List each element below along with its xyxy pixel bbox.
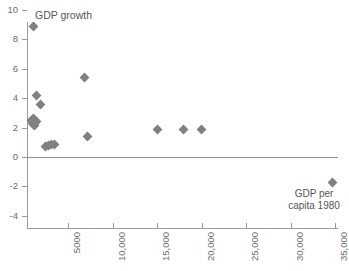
- x-tick-label: 30,000: [295, 232, 305, 261]
- x-tick-label: 10,000: [117, 232, 127, 261]
- scatter-point: [178, 125, 188, 135]
- x-tick-label: 20,000: [206, 232, 216, 261]
- y-tick-mark: [22, 216, 27, 217]
- x-tick-mark: [68, 223, 69, 229]
- y-tick-mark: [22, 10, 27, 11]
- x-tick-label: 5000: [72, 232, 82, 253]
- zero-reference-line: [27, 157, 338, 158]
- x-tick-mark: [246, 223, 247, 229]
- y-tick-mark: [22, 186, 27, 187]
- scatter-point: [197, 125, 207, 135]
- y-tick-mark: [22, 98, 27, 99]
- scatter-point: [82, 131, 92, 141]
- x-tick-mark: [335, 223, 336, 229]
- y-tick-label: 10: [0, 5, 18, 15]
- y-tick-mark: [22, 128, 27, 129]
- scatter-chart: GDP growth GDP per capita 1980 -4-202468…: [0, 0, 349, 271]
- y-axis-line: [27, 22, 28, 229]
- x-tick-mark: [113, 223, 114, 229]
- x-tick-label: 25,000: [250, 232, 260, 261]
- x-axis-title: GDP per capita 1980: [283, 188, 345, 211]
- y-tick-label: -4: [0, 211, 18, 221]
- y-tick-mark: [22, 39, 27, 40]
- x-tick-mark: [157, 223, 158, 229]
- y-tick-label: 6: [0, 64, 18, 74]
- x-tick-mark: [291, 223, 292, 229]
- y-tick-label: 2: [0, 123, 18, 133]
- scatter-point: [36, 99, 46, 109]
- y-tick-label: 0: [0, 152, 18, 162]
- x-tick-label: 15,000: [161, 232, 171, 261]
- y-tick-label: 4: [0, 93, 18, 103]
- x-tick-label: 35,000: [339, 232, 349, 261]
- scatter-point: [79, 73, 89, 83]
- scatter-point: [29, 21, 39, 31]
- y-axis-title: GDP growth: [35, 10, 92, 21]
- scatter-point: [327, 177, 337, 187]
- x-tick-mark: [202, 223, 203, 229]
- y-tick-mark: [22, 157, 27, 158]
- y-tick-label: -2: [0, 181, 18, 191]
- scatter-point: [152, 125, 162, 135]
- y-tick-mark: [22, 69, 27, 70]
- y-tick-label: 8: [0, 34, 18, 44]
